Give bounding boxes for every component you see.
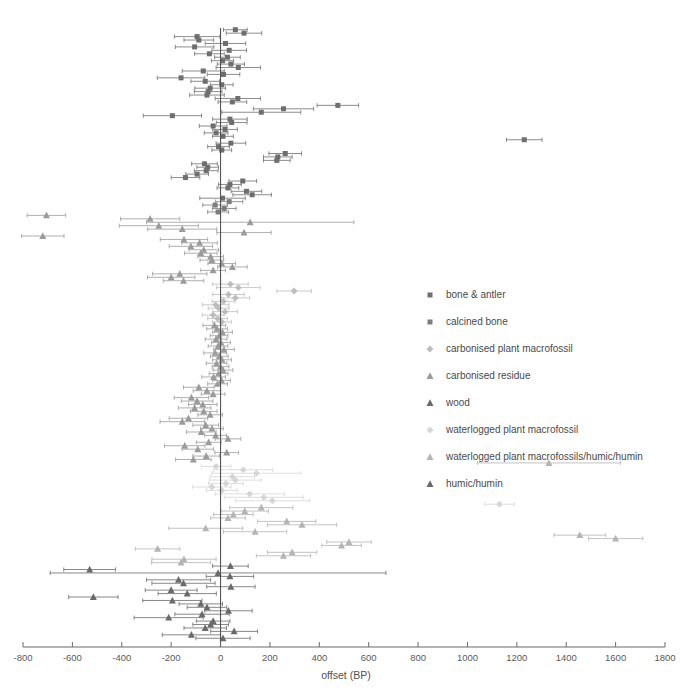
data-point: [283, 151, 288, 156]
data-point: [200, 408, 207, 415]
data-point: [90, 593, 97, 600]
legend-marker-diamond: [427, 427, 434, 434]
data-point: [201, 68, 206, 73]
data-point: [169, 597, 176, 604]
data-point: [233, 27, 238, 32]
data-point: [299, 521, 306, 528]
data-point: [218, 377, 225, 384]
data-point: [225, 185, 230, 190]
legend-marker-triangle: [427, 480, 434, 487]
legend-item[interactable]: calcined bone: [428, 316, 509, 327]
legend-label: waterlogged plant macrofossils/humic/hum…: [445, 451, 643, 462]
data-point: [179, 418, 186, 425]
data-point: [335, 103, 340, 108]
data-point: [280, 552, 287, 559]
data-point: [213, 203, 218, 208]
data-point: [576, 531, 583, 538]
legend-item[interactable]: waterlogged plant macrofossils/humic/hum…: [427, 451, 643, 462]
data-point: [281, 106, 286, 111]
legend-marker-triangle: [427, 372, 434, 379]
data-point: [227, 281, 234, 288]
data-point: [226, 573, 233, 580]
data-point: [229, 120, 234, 125]
data-point: [196, 239, 203, 246]
data-point: [222, 308, 229, 315]
legend-marker-triangle: [427, 453, 434, 460]
data-point: [225, 607, 232, 614]
data-point: [260, 494, 267, 501]
data-point: [181, 442, 188, 449]
legend-item[interactable]: humic/humin: [427, 478, 503, 489]
data-point: [198, 428, 205, 435]
legend-label: calcined bone: [446, 316, 508, 327]
legend-label: carbonised plant macrofossil: [446, 343, 573, 354]
data-point: [165, 614, 172, 621]
data-point: [227, 583, 234, 590]
data-point: [204, 168, 209, 173]
x-tick-label: -400: [112, 652, 131, 663]
data-point: [188, 394, 195, 401]
legend-label: waterlogged plant macrofossil: [445, 424, 578, 435]
data-point: [155, 222, 162, 229]
legend-label: humic/humin: [446, 478, 503, 489]
data-point: [176, 270, 183, 277]
data-point: [192, 44, 197, 49]
data-point: [225, 55, 230, 60]
data-point: [43, 212, 50, 219]
data-point: [235, 284, 242, 291]
chart-container: -800-600-400-200020040060080010001200140…: [0, 0, 693, 700]
data-point: [214, 130, 219, 135]
data-point: [190, 456, 197, 463]
legend-item[interactable]: carbonised plant macrofossil: [427, 343, 573, 354]
legend-item[interactable]: carbonised residue: [427, 370, 531, 381]
data-point: [253, 470, 260, 477]
data-point: [228, 62, 233, 67]
legend-item[interactable]: bone & antler: [428, 289, 507, 300]
legend: bone & antlercalcined bonecarbonised pla…: [427, 289, 643, 489]
data-point: [170, 113, 175, 118]
legend-item[interactable]: wood: [427, 397, 470, 408]
data-point: [222, 127, 227, 132]
data-point: [224, 435, 231, 442]
data-point: [203, 79, 208, 84]
legend-label: bone & antler: [446, 289, 506, 300]
data-point: [202, 524, 209, 531]
data-point: [227, 562, 234, 569]
data-point: [269, 497, 276, 504]
data-point: [222, 206, 227, 211]
data-point: [225, 291, 232, 298]
data-point: [247, 218, 254, 225]
data-point: [259, 110, 264, 115]
data-point: [258, 504, 265, 511]
legend-item[interactable]: waterlogged plant macrofossil: [427, 424, 579, 435]
data-point: [250, 192, 255, 197]
x-tick-label: 0: [218, 652, 223, 663]
data-point: [232, 294, 239, 301]
data-point: [185, 414, 192, 421]
data-point: [212, 349, 219, 356]
data-point: [180, 277, 187, 284]
data-point: [197, 600, 204, 607]
data-point: [223, 480, 230, 487]
x-tick-label: 800: [410, 652, 426, 663]
data-point: [210, 390, 217, 397]
data-point: [230, 99, 235, 104]
data-point: [241, 229, 248, 236]
x-tick-label: 1200: [506, 652, 527, 663]
x-tick-label: 600: [361, 652, 377, 663]
data-point: [187, 243, 194, 250]
legend-marker-diamond: [427, 346, 434, 353]
data-point: [612, 535, 619, 542]
data-point: [210, 373, 217, 380]
data-point: [220, 346, 227, 353]
data-point: [221, 72, 226, 77]
data-point: [183, 175, 188, 180]
data-point: [229, 263, 236, 270]
data-point: [252, 528, 259, 535]
legend-marker-square: [428, 320, 433, 325]
data-point: [196, 38, 201, 43]
data-point: [227, 48, 232, 53]
data-point: [86, 566, 93, 573]
x-tick-label: 200: [262, 652, 278, 663]
x-tick-label: 1400: [556, 652, 577, 663]
